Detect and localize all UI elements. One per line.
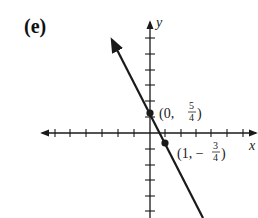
panel-label: (e) <box>24 15 46 38</box>
svg-text:): ) <box>197 106 202 122</box>
svg-text:4: 4 <box>213 152 218 163</box>
point-y-intercept <box>146 109 153 116</box>
svg-text:(1, −: (1, − <box>177 146 204 162</box>
point-label-1: (1, − 3 4 ) <box>177 140 226 163</box>
y-axis-label: y <box>154 15 163 30</box>
point-label-y-intercept: (0, 5 4 ) <box>159 100 202 123</box>
svg-text:5: 5 <box>189 100 194 111</box>
svg-text:(0,: (0, <box>159 106 174 122</box>
x-axis-label: x <box>248 138 256 153</box>
svg-text:): ) <box>221 146 226 162</box>
point-1 <box>161 139 168 146</box>
svg-text:3: 3 <box>213 140 218 151</box>
svg-text:4: 4 <box>189 112 194 123</box>
graph-line <box>112 40 203 218</box>
coordinate-plot: (e) y x (0, <box>0 0 258 218</box>
